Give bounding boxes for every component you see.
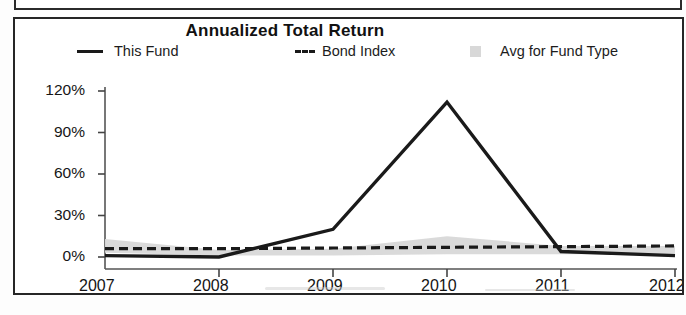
scanned-page: Annualized Total Return This Fund Bond I… xyxy=(0,0,686,315)
y-axis-labels: 0%30%60%90%120% xyxy=(23,19,85,295)
plot-svg xyxy=(15,19,684,295)
x-axis-tick-label: 2008 xyxy=(193,277,229,295)
y-axis-tick-label: 30% xyxy=(23,206,85,224)
plot-area: 0%30%60%90%120% 200720082009201020112012… xyxy=(15,19,684,295)
x-axis-tick-label: 2007 xyxy=(79,277,115,295)
upper-panel-border xyxy=(14,0,682,10)
chart-panel: Annualized Total Return This Fund Bond I… xyxy=(13,17,684,295)
x-axis-tick-label: 2012YTD xyxy=(649,277,684,295)
x-axis-tick-label: 2011 xyxy=(535,277,569,295)
y-axis-tick-label: 60% xyxy=(23,164,85,182)
x-axis-tick-label: 2009 xyxy=(307,277,343,295)
y-axis-tick-label: 120% xyxy=(23,81,85,99)
scan-artifact xyxy=(485,289,575,291)
y-axis-tick-label: 90% xyxy=(23,123,85,141)
x-axis-tick-label: 2010 xyxy=(421,277,457,295)
scan-artifact xyxy=(265,287,385,290)
